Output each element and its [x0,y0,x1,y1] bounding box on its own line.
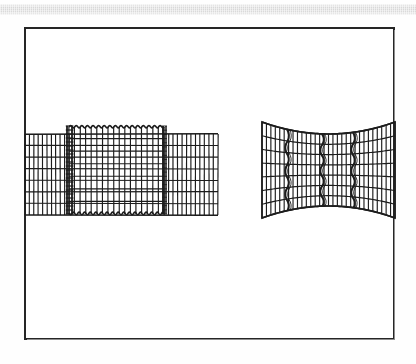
left-mesh-undeformed-with-inclusion [25,126,218,216]
inclusion-top-scalloped-boundary [69,126,164,128]
inclusion-bottom-scalloped-boundary [69,212,164,215]
scanned-page [0,0,416,364]
mesh-row-line [25,203,218,204]
mesh-figure-canvas [0,0,416,364]
right-mesh-deformed-necked [262,122,395,218]
